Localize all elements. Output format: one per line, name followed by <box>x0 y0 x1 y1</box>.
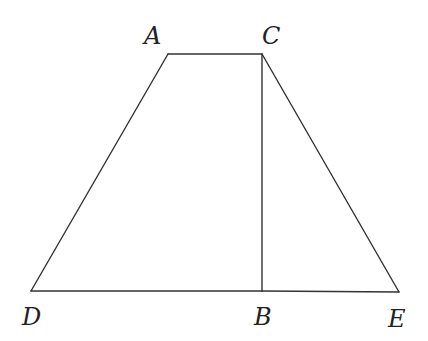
segment-ad <box>31 54 168 291</box>
label-a: A <box>142 22 161 50</box>
segments <box>31 54 399 292</box>
label-e: E <box>387 305 406 333</box>
segment-ce <box>262 54 399 292</box>
label-c: C <box>262 22 280 50</box>
point-labels: A C D B E <box>21 22 406 333</box>
geometry-figure: A C D B E <box>0 0 428 341</box>
segment-be <box>262 291 399 292</box>
label-d: D <box>21 303 41 331</box>
label-b: B <box>253 303 272 331</box>
